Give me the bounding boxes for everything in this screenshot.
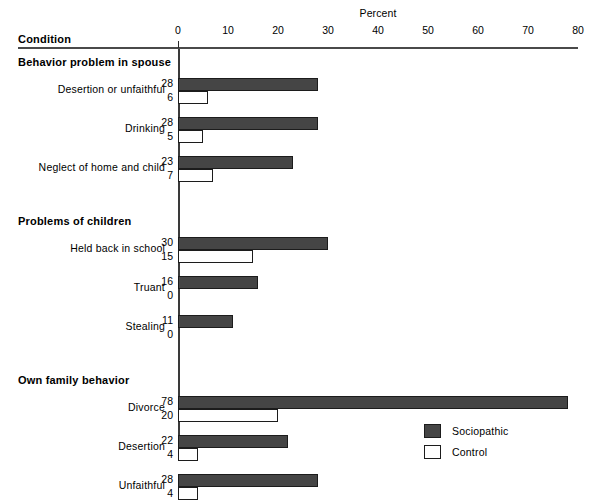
- value-sociopathic-1: 28: [161, 116, 173, 128]
- bar-sociopathic-3: [178, 237, 328, 250]
- bar-sociopathic-8: [178, 474, 318, 487]
- legend-item-sociopathic: Sociopathic: [424, 420, 508, 441]
- x-tick-label-70: 70: [508, 24, 548, 36]
- bar-sociopathic-7: [178, 435, 288, 448]
- bar-control-1: [178, 130, 203, 143]
- x-tick-label-10: 10: [208, 24, 248, 36]
- row-label-6: Divorce: [128, 401, 165, 413]
- value-control-1: 5: [167, 130, 173, 142]
- header-divider: [18, 47, 578, 49]
- row-label-1: Drinking: [125, 122, 165, 134]
- axis-title-percent: Percent: [328, 7, 428, 19]
- value-control-5: 0: [167, 328, 173, 340]
- bar-sociopathic-6: [178, 396, 568, 409]
- value-sociopathic-3: 30: [161, 236, 173, 248]
- row-label-3: Held back in school: [70, 242, 165, 254]
- bar-sociopathic-5: [178, 315, 233, 328]
- value-sociopathic-4: 16: [161, 275, 173, 287]
- bar-control-2: [178, 169, 213, 182]
- bar-control-0: [178, 91, 208, 104]
- bar-control-7: [178, 448, 198, 461]
- bar-control-8: [178, 487, 198, 500]
- value-control-2: 7: [167, 169, 173, 181]
- value-sociopathic-6: 78: [161, 395, 173, 407]
- value-sociopathic-2: 23: [161, 155, 173, 167]
- value-sociopathic-5: 11: [162, 314, 173, 326]
- legend-item-control: Control: [424, 441, 508, 462]
- x-tick-label-30: 30: [308, 24, 348, 36]
- row-label-7: Desertion: [118, 440, 165, 452]
- bar-control-6: [178, 409, 278, 422]
- legend: Sociopathic Control: [424, 420, 508, 462]
- group-heading-1: Problems of children: [18, 215, 131, 227]
- value-sociopathic-7: 22: [161, 434, 173, 446]
- x-tick-label-0: 0: [158, 24, 198, 36]
- x-tick-label-50: 50: [408, 24, 448, 36]
- value-control-7: 4: [167, 448, 173, 460]
- row-label-4: Truant: [134, 281, 165, 293]
- legend-label-sociopathic: Sociopathic: [452, 425, 508, 437]
- column-header-condition: Condition: [18, 33, 71, 45]
- value-sociopathic-8: 28: [161, 473, 173, 485]
- bar-control-3: [178, 250, 253, 263]
- x-tick-label-80: 80: [558, 24, 594, 36]
- value-control-4: 0: [167, 289, 173, 301]
- bar-sociopathic-0: [178, 78, 318, 91]
- value-sociopathic-0: 28: [161, 77, 173, 89]
- value-control-0: 6: [167, 91, 173, 103]
- row-label-5: Stealing: [125, 320, 165, 332]
- row-label-0: Desertion or unfaithful: [58, 83, 165, 95]
- x-tick-mark-0: [178, 41, 179, 48]
- bar-sociopathic-4: [178, 276, 258, 289]
- group-heading-0: Behavior problem in spouse: [18, 56, 171, 68]
- x-tick-label-40: 40: [358, 24, 398, 36]
- x-tick-label-20: 20: [258, 24, 298, 36]
- bar-sociopathic-1: [178, 117, 318, 130]
- bar-sociopathic-2: [178, 156, 293, 169]
- legend-swatch-sociopathic-icon: [424, 424, 441, 438]
- x-tick-label-60: 60: [458, 24, 498, 36]
- value-control-8: 4: [167, 487, 173, 499]
- legend-swatch-control-icon: [424, 445, 441, 459]
- legend-label-control: Control: [452, 446, 487, 458]
- value-control-3: 15: [161, 250, 173, 262]
- group-heading-2: Own family behavior: [18, 374, 129, 386]
- value-control-6: 20: [161, 409, 173, 421]
- row-label-8: Unfaithful: [119, 479, 165, 491]
- row-label-2: Neglect of home and child: [39, 161, 165, 173]
